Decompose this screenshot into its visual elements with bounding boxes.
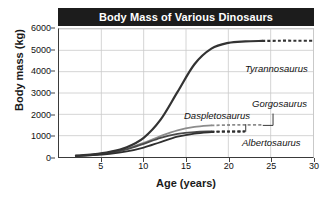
y-tick-label: 2000: [31, 110, 51, 120]
series-label-tyrannosaurus: Tyrannosaurus: [245, 63, 308, 74]
x-tick-mark: [314, 158, 315, 162]
y-tick-label: 4000: [31, 66, 51, 76]
y-tick-label: 1000: [31, 131, 51, 141]
x-tick-label: 20: [224, 161, 234, 171]
x-tick-mark: [271, 158, 272, 162]
x-tick-label: 30: [309, 161, 319, 171]
chart-title-banner: Body Mass of Various Dinosaurs: [58, 8, 314, 26]
y-tick-mark: [51, 114, 55, 115]
chart-title: Body Mass of Various Dinosaurs: [99, 11, 273, 23]
y-tick-mark: [51, 158, 55, 159]
series-label-albertosaurus: Albertosaurus: [242, 137, 301, 148]
x-tick-label: 5: [98, 161, 103, 171]
x-tick-label: 15: [181, 161, 191, 171]
y-tick-mark: [51, 136, 55, 137]
y-tick-label: 6000: [31, 23, 51, 33]
y-axis-ticks: 0100020003000400050006000: [0, 28, 55, 158]
y-tick-label: 5000: [31, 45, 51, 55]
series-label-daspletosaurus: Daspletosaurus: [184, 110, 250, 121]
chart-figure: Body Mass of Various Dinosaurs Body mass…: [0, 0, 327, 209]
y-tick-label: 3000: [31, 88, 51, 98]
series-label-gorgosaurus: Gorgosaurus: [252, 98, 307, 109]
x-tick-mark: [143, 158, 144, 162]
y-tick-mark: [51, 93, 55, 94]
x-tick-mark: [229, 158, 230, 162]
x-tick-mark: [101, 158, 102, 162]
x-axis-title: Age (years): [58, 177, 314, 189]
y-tick-mark: [51, 71, 55, 72]
x-tick-label: 10: [138, 161, 148, 171]
y-tick-mark: [51, 28, 55, 29]
x-axis-ticks: 51015202530: [58, 158, 314, 176]
x-tick-mark: [186, 158, 187, 162]
y-tick-mark: [51, 49, 55, 50]
x-tick-label: 25: [266, 161, 276, 171]
